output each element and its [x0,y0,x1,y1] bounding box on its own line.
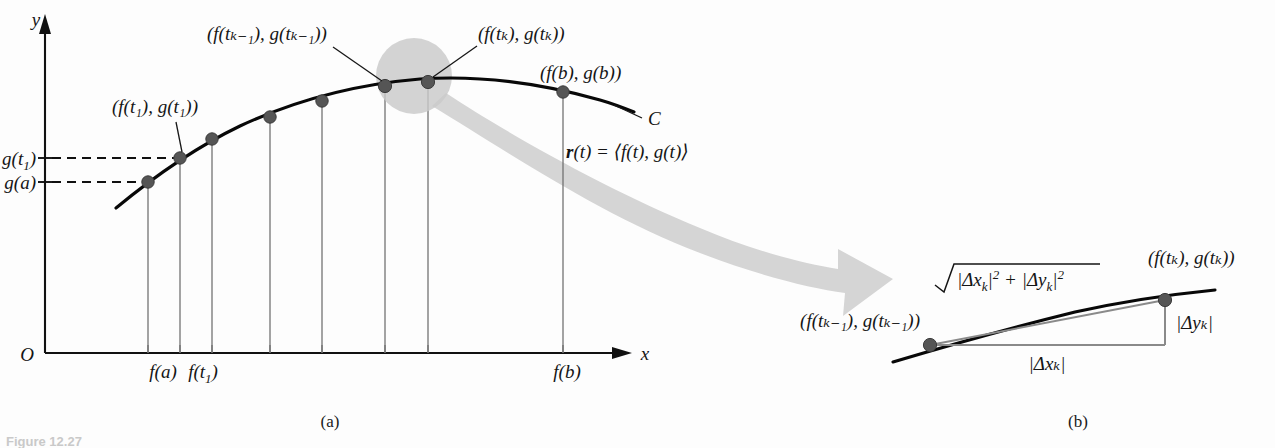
hypotenuse-length-label: |Δxk|2 + |Δyk|2 [935,264,1100,294]
panel-a: y x O g(t1) g(a) f(a) f(t1) f(b) (f(t₁),… [2,9,689,431]
delta-y-label: |Δyₖ| [1176,312,1213,333]
x-tick-label-f-b: f(b) [553,361,580,383]
y-tick-label-g-a: g(a) [4,172,36,194]
panel-b-label-tk-minus-1: (f(tₖ₋₁), g(tₖ₋₁)) [800,310,920,332]
delta-x-label: |Δxₖ| [1029,353,1066,374]
chord-hypotenuse [930,300,1165,345]
y-axis-label: y [30,9,41,30]
x-tick-label-f-a: f(a) [149,361,176,383]
origin-label: O [20,344,34,365]
y-axis [39,14,51,353]
x-axis-label: x [640,343,650,364]
panel-a-caption: (a) [321,412,340,431]
partition-droplines [148,82,563,353]
figure-reference: Figure 12.27 [6,434,82,448]
vector-equation: r(t) = ⟨f(t), g(t)⟩ [566,141,689,163]
magnifier-arrow [432,93,893,316]
curve-label-c: C [648,108,661,129]
point-label-tk-minus-1: (f(tₖ₋₁), g(tₖ₋₁)) [207,23,327,45]
point-label-b: (f(b), g(b)) [540,62,621,84]
panel-b-left-point [923,338,936,351]
point-label-t1: (f(t₁), g(t₁)) [112,96,198,118]
panel-b-caption: (b) [1068,412,1088,431]
figure-container: y x O g(t1) g(a) f(a) f(t1) f(b) (f(t₁),… [0,0,1275,448]
figure-svg: y x O g(t1) g(a) f(a) f(t1) f(b) (f(t₁),… [0,0,1275,448]
x-tick-label-f-t1: f(t1) [188,361,218,386]
x-axis [45,347,632,359]
x-axis-ticks [148,345,563,353]
dashed-guides [52,158,180,182]
hypotenuse-radicand: |Δxk|2 + |Δyk|2 [957,267,1064,294]
y-tick-label-g-t1: g(t1) [2,148,36,173]
panel-b-right-point [1158,293,1171,306]
point-label-tk: (f(tₖ), g(tₖ)) [478,23,565,45]
magnifier-circle [376,38,452,114]
panel-b-label-tk: (f(tₖ), g(tₖ)) [1148,247,1235,269]
